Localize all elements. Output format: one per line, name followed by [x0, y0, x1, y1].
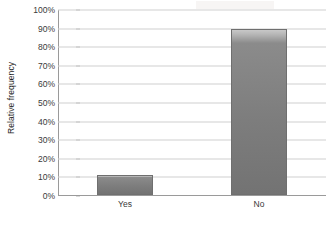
y-tick-label: 60%: [38, 79, 55, 89]
y-tick-label: 40%: [38, 117, 55, 127]
y-tick-label: 70%: [38, 61, 55, 71]
x-tick-label: Yes: [118, 199, 132, 209]
y-axis-title-label: Relative frequency: [6, 62, 16, 134]
y-tick-label: 0%: [43, 191, 55, 201]
gridline: [58, 10, 326, 11]
plot-area: [58, 10, 326, 196]
y-tick-label: 50%: [38, 98, 55, 108]
y-tick-label: 80%: [38, 42, 55, 52]
bar-chart: Relative frequency 0%10%20%30%40%50%60%7…: [0, 0, 331, 229]
y-tick-label: 30%: [38, 135, 55, 145]
y-axis-title: Relative frequency: [0, 0, 22, 196]
y-tick-label: 100%: [33, 5, 55, 15]
y-axis-tick-labels: 0%10%20%30%40%50%60%70%80%90%100%: [22, 0, 58, 196]
bar-no: [231, 29, 287, 195]
x-axis-line: [58, 195, 326, 196]
y-tick-label: 10%: [38, 172, 55, 182]
scan-artifact: [196, 1, 274, 9]
y-tick-label: 20%: [38, 154, 55, 164]
x-axis-tick-labels: YesNo: [58, 199, 326, 221]
bar-yes: [97, 175, 153, 195]
y-tick-label: 90%: [38, 24, 55, 34]
x-tick-label: No: [254, 199, 265, 209]
